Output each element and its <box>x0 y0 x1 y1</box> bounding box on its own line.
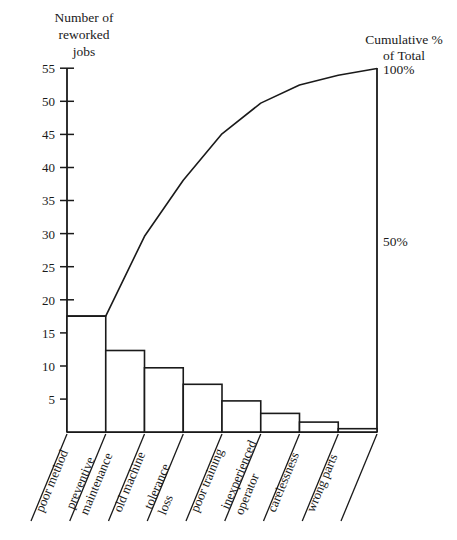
bars-group <box>67 316 377 432</box>
bar-poor-training[interactable] <box>222 401 261 432</box>
bar-preventive-maintenance[interactable] <box>106 351 145 433</box>
category-label-preventive-maintenance[interactable]: preventive maintenance <box>63 444 116 516</box>
separator-8 <box>341 434 377 521</box>
bar-inexperienced-operator[interactable] <box>261 413 300 432</box>
y2-tick-label-50: 50% <box>383 234 408 249</box>
y-axis-tick-labels: 55 50 45 40 35 30 25 20 15 10 5 <box>42 61 55 407</box>
bar-old-machine[interactable] <box>145 368 184 432</box>
y-axis-title-line-3: jobs <box>72 44 96 59</box>
bar-carelessness[interactable] <box>300 422 339 432</box>
pareto-chart-canvas: Number of reworked jobs Cumulative % of … <box>0 0 457 540</box>
pareto-chart: Number of reworked jobs Cumulative % of … <box>0 0 457 540</box>
category-label-tolerance-loss[interactable]: tolerance loss <box>141 461 187 517</box>
y-tick-label-20: 20 <box>42 293 55 308</box>
bar-poor-method[interactable] <box>67 316 106 432</box>
bar-wrong-parts[interactable] <box>338 429 377 432</box>
y2-axis-title: Cumulative % of Total <box>365 32 443 63</box>
y2-tick-label-100: 100% <box>383 62 415 77</box>
y2-axis-title-line-1: Cumulative % <box>365 32 443 47</box>
y-tick-label-10: 10 <box>42 359 55 374</box>
category-labels: poor method preventive maintenance old m… <box>32 438 340 517</box>
y-tick-label-35: 35 <box>42 193 55 208</box>
y-tick-label-25: 25 <box>42 260 55 275</box>
category-label-carelessness-line-1: carelessness <box>264 450 302 514</box>
y-tick-label-15: 15 <box>42 326 55 341</box>
y-tick-label-5: 5 <box>49 392 56 407</box>
bar-tolerance-loss[interactable] <box>183 384 222 432</box>
y-tick-label-40: 40 <box>42 160 55 175</box>
y2-axis-title-line-2: of Total <box>383 48 425 63</box>
y-tick-label-45: 45 <box>42 127 55 142</box>
category-label-carelessness[interactable]: carelessness <box>264 450 302 514</box>
y-tick-label-30: 30 <box>42 227 55 242</box>
y-tick-label-50: 50 <box>42 94 55 109</box>
y-axis-title-line-2: reworked <box>59 27 110 42</box>
y-axis-title-line-1: Number of <box>55 10 114 25</box>
y-axis-title: Number of reworked jobs <box>55 10 114 59</box>
category-label-wrong-parts-line-1: wrong parts <box>303 451 340 514</box>
cumulative-percentage-line <box>67 69 377 317</box>
y-tick-label-55: 55 <box>42 61 55 76</box>
category-label-wrong-parts[interactable]: wrong parts <box>303 451 340 514</box>
